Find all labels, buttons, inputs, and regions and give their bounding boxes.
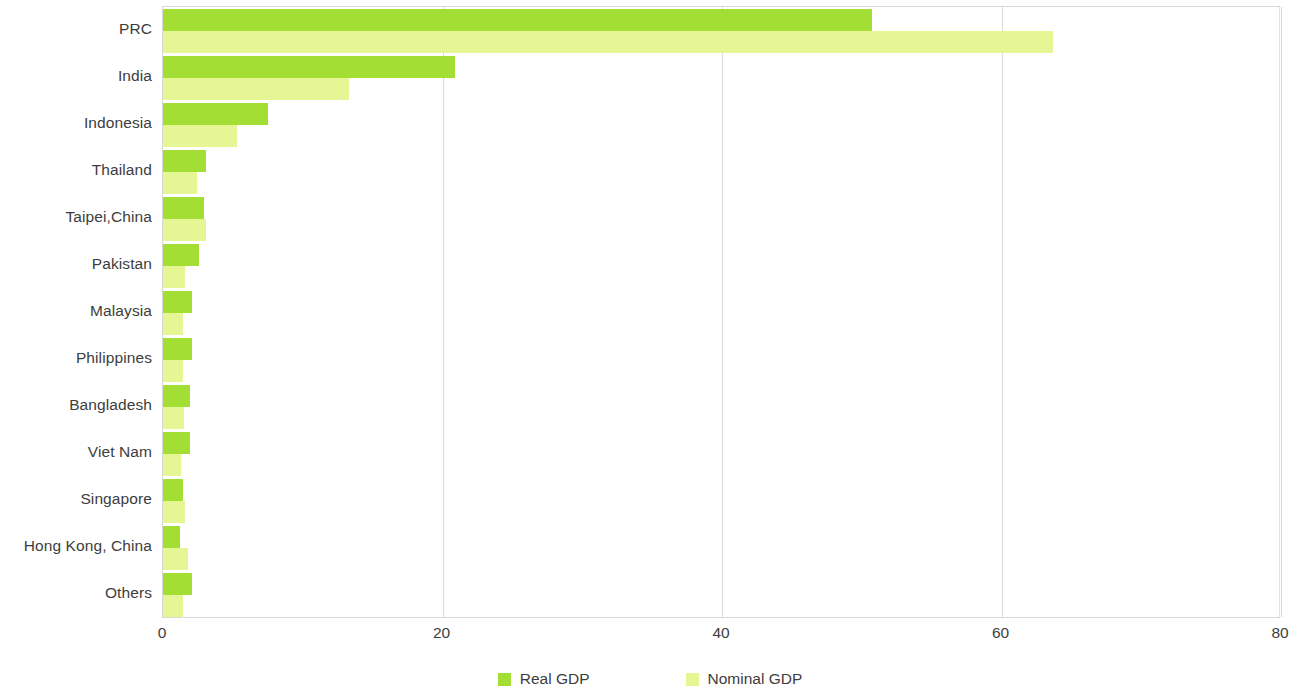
bar-nominal-gdp: [163, 548, 188, 570]
chart-legend: Real GDPNominal GDP: [0, 662, 1300, 696]
bar-nominal-gdp: [163, 266, 185, 288]
y-axis-label: Taipei,China: [0, 208, 152, 226]
bar-group: [163, 244, 1279, 288]
bar-group: [163, 573, 1279, 617]
y-axis-label: Pakistan: [0, 255, 152, 273]
bar-group: [163, 103, 1279, 147]
bar-nominal-gdp: [163, 172, 197, 194]
legend-label: Real GDP: [520, 670, 590, 688]
bar-real-gdp: [163, 150, 206, 172]
bar-group: [163, 291, 1279, 335]
bar-group: [163, 9, 1279, 53]
y-axis-label: Singapore: [0, 490, 152, 508]
y-axis-label: India: [0, 67, 152, 85]
bar-real-gdp: [163, 56, 455, 78]
bar-group: [163, 432, 1279, 476]
bar-nominal-gdp: [163, 219, 206, 241]
legend-item[interactable]: Nominal GDP: [686, 670, 803, 688]
bar-nominal-gdp: [163, 78, 349, 100]
bar-group: [163, 479, 1279, 523]
y-axis-label: Others: [0, 584, 152, 602]
bar-group: [163, 150, 1279, 194]
y-axis-label: Bangladesh: [0, 396, 152, 414]
bar-real-gdp: [163, 338, 192, 360]
x-axis-tick-label: 60: [992, 624, 1009, 642]
y-axis-label: Viet Nam: [0, 443, 152, 461]
bar-group: [163, 526, 1279, 570]
bar-real-gdp: [163, 9, 872, 31]
legend-swatch-icon: [498, 673, 511, 686]
y-axis-label: PRC: [0, 20, 152, 38]
y-axis-label: Indonesia: [0, 114, 152, 132]
legend-item[interactable]: Real GDP: [498, 670, 590, 688]
grouped-bar-chart: PRCIndiaIndonesiaThailandTaipei,ChinaPak…: [0, 0, 1300, 696]
bar-real-gdp: [163, 291, 192, 313]
bar-group: [163, 385, 1279, 429]
bar-group: [163, 338, 1279, 382]
bar-nominal-gdp: [163, 454, 181, 476]
bar-real-gdp: [163, 103, 268, 125]
gridline-80: [1281, 7, 1282, 617]
x-axis-tick-labels: 020406080: [0, 620, 1300, 650]
bar-nominal-gdp: [163, 360, 183, 382]
x-axis-tick-label: 80: [1271, 624, 1288, 642]
bar-real-gdp: [163, 385, 190, 407]
bar-real-gdp: [163, 244, 199, 266]
bar-nominal-gdp: [163, 125, 237, 147]
bar-real-gdp: [163, 197, 204, 219]
y-axis-label: Philippines: [0, 349, 152, 367]
legend-label: Nominal GDP: [708, 670, 803, 688]
bar-group: [163, 56, 1279, 100]
bar-real-gdp: [163, 432, 190, 454]
x-axis-tick-label: 20: [433, 624, 450, 642]
bar-real-gdp: [163, 573, 192, 595]
y-axis-category-labels: PRCIndiaIndonesiaThailandTaipei,ChinaPak…: [0, 6, 152, 618]
y-axis-label: Hong Kong, China: [0, 537, 152, 555]
bar-nominal-gdp: [163, 501, 185, 523]
plot-area: [162, 6, 1280, 618]
bar-nominal-gdp: [163, 595, 183, 617]
bar-real-gdp: [163, 526, 180, 548]
x-axis-tick-label: 40: [712, 624, 729, 642]
legend-swatch-icon: [686, 673, 699, 686]
y-axis-label: Thailand: [0, 161, 152, 179]
bar-real-gdp: [163, 479, 183, 501]
y-axis-label: Malaysia: [0, 302, 152, 320]
bar-group: [163, 197, 1279, 241]
x-axis-tick-label: 0: [158, 624, 167, 642]
bar-nominal-gdp: [163, 407, 184, 429]
bar-nominal-gdp: [163, 31, 1053, 53]
bar-nominal-gdp: [163, 313, 183, 335]
